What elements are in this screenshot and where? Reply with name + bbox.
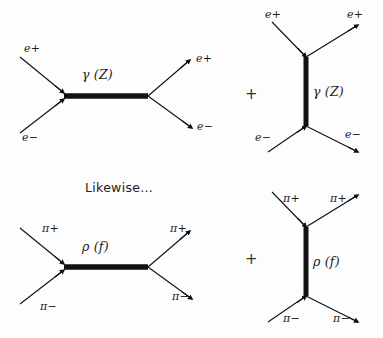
arrowhead-incoming-pi-plus xyxy=(298,219,306,227)
arrowhead-incoming-electron xyxy=(55,100,63,107)
label-outgoing-electron-d2: e− xyxy=(345,128,361,141)
arrowhead-incoming-positron xyxy=(55,86,63,93)
arrowhead-incoming-positron xyxy=(298,49,306,57)
arrowhead-outgoing-positron xyxy=(348,25,358,31)
label-incoming-pi-plus-d3: π+ xyxy=(42,222,59,235)
likewise-note: Likewise... xyxy=(85,180,153,195)
label-outgoing-pi-plus-d3: π+ xyxy=(170,222,187,235)
arrowhead-incoming-pi-plus xyxy=(55,257,63,264)
label-propagator-d2: γ (Z) xyxy=(313,84,344,99)
plus-sign-bottom: + xyxy=(245,250,258,268)
arrowhead-incoming-pi-minus xyxy=(297,297,306,303)
label-propagator-d3: ρ (f) xyxy=(82,239,109,254)
arrowhead-outgoing-electron xyxy=(348,147,358,152)
label-incoming-positron-d1: e+ xyxy=(24,42,40,55)
label-propagator-d4: ρ (f) xyxy=(313,254,340,269)
label-incoming-positron-d2: e+ xyxy=(265,8,281,21)
feynman-diagram-figure: e+ e− γ (Z) e+ e− + e+ e+ γ (Z) e− e− Li… xyxy=(0,0,383,338)
label-incoming-electron-d2: e− xyxy=(255,131,271,144)
label-outgoing-pi-plus-d4: π+ xyxy=(330,192,347,205)
label-incoming-pi-plus-d4: π+ xyxy=(283,192,300,205)
label-outgoing-positron-d1: e+ xyxy=(196,52,212,65)
arrowhead-outgoing-electron xyxy=(182,121,192,128)
diagram-canvas xyxy=(0,0,383,338)
label-outgoing-pi-minus-d4: π− xyxy=(333,312,350,325)
label-incoming-pi-minus-d3: π− xyxy=(40,300,57,313)
arrowhead-incoming-pi-minus xyxy=(55,271,63,278)
arrowhead-outgoing-positron xyxy=(180,60,190,68)
arrowhead-incoming-electron xyxy=(297,127,306,133)
label-incoming-pi-minus-d4: π− xyxy=(283,312,300,325)
label-outgoing-pi-minus-d3: π− xyxy=(172,290,189,303)
label-outgoing-electron-d1: e− xyxy=(197,120,213,133)
arrowhead-outgoing-pi-plus xyxy=(348,195,358,201)
plus-sign-top: + xyxy=(245,85,258,103)
label-outgoing-positron-d2: e+ xyxy=(347,8,363,21)
label-propagator-d1: γ (Z) xyxy=(82,67,113,82)
label-incoming-electron-d1: e− xyxy=(22,131,38,144)
